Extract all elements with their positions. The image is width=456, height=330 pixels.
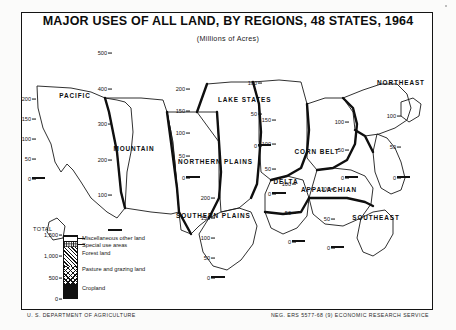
axis-tick: 150 <box>262 117 271 123</box>
axis-tick-mark <box>345 122 349 123</box>
legend-tick-mark <box>59 235 62 236</box>
axis-tick: 50 <box>390 144 396 150</box>
stacked-bar <box>211 276 225 278</box>
axis-tick-mark <box>108 53 112 54</box>
axis-tick-mark <box>211 258 215 259</box>
axis-tick: 500 <box>98 50 107 56</box>
page-speck <box>445 5 447 7</box>
region-label-delta: DELTA <box>268 178 304 185</box>
axis-tick: 100 <box>176 130 185 136</box>
axis-tick: 0 <box>393 175 396 181</box>
footer-credit: NEG. ERS 5577-68 (9) ECONOMIC RESEARCH S… <box>271 312 429 318</box>
legend-tick: 1,000 <box>44 253 58 259</box>
legend-tick-mark <box>59 299 62 300</box>
axis-tick-mark <box>397 116 401 117</box>
axis-tick: 150 <box>22 116 31 122</box>
axis-tick-mark <box>272 144 276 145</box>
region-axis: 100500 <box>303 121 345 178</box>
axis-tick: 100 <box>248 80 257 86</box>
legend-item-forest: Forest land <box>82 250 110 256</box>
axis-tick: 50 <box>25 156 31 162</box>
axis-tick-mark <box>345 150 349 151</box>
footer-agency: U. S. DEPARTMENT OF AGRICULTURE <box>27 312 136 318</box>
region-chart-southeast: 100500 <box>331 189 344 248</box>
axis-tick-mark <box>258 83 262 84</box>
axis-tick: 0 <box>182 175 185 181</box>
axis-tick-mark <box>108 160 112 161</box>
axis-tick: 50 <box>204 255 210 261</box>
legend-item-cropland: Cropland <box>82 285 105 291</box>
axis-tick: 100 <box>321 186 330 192</box>
chart-title: MAJOR USES OF ALL LAND, BY REGIONS, 48 S… <box>0 14 456 28</box>
axis-tick-mark <box>331 189 335 190</box>
poster-root: MAJOR USES OF ALL LAND, BY REGIONS, 48 S… <box>0 0 456 330</box>
stacked-bar <box>108 229 122 231</box>
axis-tick: 50 <box>265 166 271 172</box>
axis-tick-mark <box>397 147 401 148</box>
legend-tick-mark <box>59 256 62 257</box>
axis-tick-mark <box>186 89 190 90</box>
axis-tick: 0 <box>28 176 31 182</box>
region-chart-southern-plains: 200150100500 <box>211 199 225 278</box>
axis-tick: 100 <box>22 136 31 142</box>
region-axis: 200150100500 <box>0 99 32 179</box>
region-chart-pacific: 200150100500 <box>32 99 45 179</box>
legend-bar <box>63 235 78 299</box>
region-axis: 100500 <box>355 116 397 178</box>
region-chart-mountain: 500400300200100 <box>108 39 122 231</box>
stacked-bar <box>186 176 200 178</box>
axis-tick: 100 <box>387 113 396 119</box>
region-axis: 200150100500 <box>144 92 186 178</box>
legend-tick-mark <box>59 277 62 278</box>
axis-tick-mark <box>108 124 112 125</box>
axis-tick-mark <box>32 139 36 140</box>
axis-tick-mark <box>108 195 112 196</box>
axis-tick: 150 <box>176 108 185 114</box>
region-axis: 500400300200100 <box>66 39 108 231</box>
legend-axis: 1,5001,0005000 <box>33 235 60 299</box>
region-axis: 100500 <box>289 189 331 248</box>
axis-tick: 0 <box>207 275 210 281</box>
region-chart-northern-plains: 200150100500 <box>186 92 200 178</box>
axis-tick: 200 <box>22 96 31 102</box>
axis-tick-mark <box>211 198 215 199</box>
axis-tick: 100 <box>335 119 344 125</box>
axis-tick-mark <box>32 159 36 160</box>
axis-tick: 50 <box>338 147 344 153</box>
region-axis: 200150100500 <box>169 199 211 278</box>
axis-tick: 50 <box>324 216 330 222</box>
legend-item-pasture: Pasture and grazing land <box>82 266 145 272</box>
axis-tick-mark <box>272 119 276 120</box>
region-label-northern-plains: NORTHERN PLAINS <box>178 158 232 165</box>
axis-tick: 100 <box>262 141 271 147</box>
axis-tick-mark <box>186 111 190 112</box>
axis-tick: 200 <box>98 157 107 163</box>
stacked-bar <box>32 177 45 179</box>
axis-tick: 0 <box>327 245 330 251</box>
axis-tick-mark <box>331 218 335 219</box>
legend-item-misc: Miscellaneous other land <box>82 235 145 241</box>
legend-tick: 500 <box>49 275 58 281</box>
legend-item-special: Special use areas <box>82 242 127 248</box>
axis-tick: 200 <box>176 86 185 92</box>
region-axis: 100500 <box>250 187 292 242</box>
axis-tick-mark <box>108 89 112 90</box>
axis-tick-mark <box>258 114 262 115</box>
axis-tick-mark <box>32 99 36 100</box>
region-axis: 150100500 <box>230 117 272 194</box>
stacked-bar <box>331 246 344 248</box>
region-chart-northeast: 100500 <box>397 116 410 178</box>
axis-tick-mark <box>186 155 190 156</box>
region-label-northeast: NORTHEAST <box>377 79 425 86</box>
axis-tick: 400 <box>98 86 107 92</box>
region-label-lake-states: LAKE STATES <box>218 96 262 103</box>
axis-tick-mark <box>272 169 276 170</box>
axis-tick-mark <box>32 119 36 120</box>
legend-tick: 1,500 <box>44 232 58 238</box>
axis-tick: 0 <box>341 175 344 181</box>
axis-tick: 300 <box>98 121 107 127</box>
axis-tick: 100 <box>98 192 107 198</box>
axis-tick-mark <box>211 238 215 239</box>
axis-tick: 200 <box>201 195 210 201</box>
region-label-southern-plains: SOUTHERN PLAINS <box>176 212 234 219</box>
